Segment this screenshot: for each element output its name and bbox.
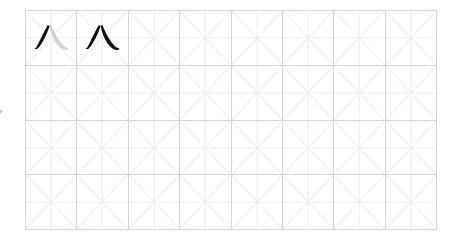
mi-zi-ge-guides-icon bbox=[386, 11, 436, 65]
mi-zi-ge-guides-icon bbox=[129, 66, 179, 120]
mi-zi-ge-guides-icon bbox=[180, 11, 230, 65]
edge-label-text: y bbox=[0, 106, 2, 118]
mi-zi-ge-guides-icon bbox=[129, 11, 179, 65]
grid-cell-r3-c4[interactable] bbox=[180, 121, 231, 176]
mi-zi-ge-guides-icon bbox=[232, 11, 282, 65]
mi-zi-ge-guides-icon bbox=[77, 121, 127, 175]
grid-cell-r4-c1[interactable] bbox=[26, 175, 77, 230]
grid-cell-r3-c3[interactable] bbox=[129, 121, 180, 176]
grid-cell-r2-c1[interactable] bbox=[26, 66, 77, 121]
mi-zi-ge-guides-icon bbox=[129, 121, 179, 175]
mi-zi-ge-guides-icon bbox=[334, 11, 384, 65]
grid-cell-r2-c2[interactable] bbox=[77, 66, 128, 121]
grid-cell-r3-c1[interactable] bbox=[26, 121, 77, 176]
grid-cell-r2-c5[interactable] bbox=[232, 66, 283, 121]
mi-zi-ge-guides-icon bbox=[77, 175, 127, 229]
grid-cell-r3-c5[interactable] bbox=[232, 121, 283, 176]
mi-zi-ge-guides-icon bbox=[232, 175, 282, 229]
grid-cell-r1-c4[interactable] bbox=[180, 11, 231, 66]
mi-zi-ge-guides-icon bbox=[180, 66, 230, 120]
grid-cell-r3-c7[interactable] bbox=[334, 121, 385, 176]
grid-cell-r3-c8[interactable] bbox=[386, 121, 437, 176]
mi-zi-ge-guides-icon bbox=[26, 175, 76, 229]
grid-cell-r1-c1[interactable] bbox=[26, 11, 77, 66]
mi-zi-ge-guides-icon bbox=[283, 11, 333, 65]
grid-cell-r3-c2[interactable] bbox=[77, 121, 128, 176]
mi-zi-ge-guides-icon bbox=[180, 175, 230, 229]
grid-cell-r4-c3[interactable] bbox=[129, 175, 180, 230]
grid-cell-r2-c8[interactable] bbox=[386, 66, 437, 121]
mi-zi-ge-guides-icon bbox=[26, 121, 76, 175]
mi-zi-ge-guides-icon bbox=[283, 121, 333, 175]
grid-cell-r4-c4[interactable] bbox=[180, 175, 231, 230]
mi-zi-ge-guides-icon bbox=[232, 121, 282, 175]
grid-cell-r4-c7[interactable] bbox=[334, 175, 385, 230]
grid-cell-r2-c7[interactable] bbox=[334, 66, 385, 121]
mi-zi-ge-guides-icon bbox=[77, 66, 127, 120]
grid-cell-r4-c2[interactable] bbox=[77, 175, 128, 230]
mi-zi-ge-guides-icon bbox=[386, 175, 436, 229]
character-practice-grid bbox=[25, 10, 437, 230]
grid-cell-r1-c8[interactable] bbox=[386, 11, 437, 66]
grid-cell-r2-c3[interactable] bbox=[129, 66, 180, 121]
grid-cell-r3-c6[interactable] bbox=[283, 121, 334, 176]
mi-zi-ge-guides-icon bbox=[180, 121, 230, 175]
grid-cell-r1-c7[interactable] bbox=[334, 11, 385, 66]
mi-zi-ge-guides-icon bbox=[386, 66, 436, 120]
mi-zi-ge-guides-icon bbox=[334, 175, 384, 229]
mi-zi-ge-guides-icon bbox=[283, 175, 333, 229]
grid-cell-r1-c2[interactable] bbox=[77, 11, 128, 66]
character-glyph-stroke-order bbox=[26, 11, 76, 65]
grid-cell-r4-c5[interactable] bbox=[232, 175, 283, 230]
grid-cell-r2-c6[interactable] bbox=[283, 66, 334, 121]
grid-cell-r1-c5[interactable] bbox=[232, 11, 283, 66]
mi-zi-ge-guides-icon bbox=[334, 66, 384, 120]
mi-zi-ge-guides-icon bbox=[129, 175, 179, 229]
mi-zi-ge-guides-icon bbox=[232, 66, 282, 120]
grid-cell-r4-c8[interactable] bbox=[386, 175, 437, 230]
grid-cell-r2-c4[interactable] bbox=[180, 66, 231, 121]
character-glyph-complete bbox=[77, 11, 127, 65]
mi-zi-ge-guides-icon bbox=[386, 121, 436, 175]
grid-cell-r4-c6[interactable] bbox=[283, 175, 334, 230]
grid-cell-r1-c3[interactable] bbox=[129, 11, 180, 66]
grid-cell-r1-c6[interactable] bbox=[283, 11, 334, 66]
mi-zi-ge-guides-icon bbox=[26, 66, 76, 120]
mi-zi-ge-guides-icon bbox=[283, 66, 333, 120]
mi-zi-ge-guides-icon bbox=[334, 121, 384, 175]
